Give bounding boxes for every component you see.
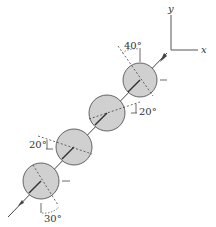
angle-label-bottom: 30°	[44, 213, 62, 224]
sphere-3: 20°	[29, 129, 92, 165]
angle-label-top: 40°	[124, 40, 142, 51]
sphere-2: 20°	[89, 95, 157, 131]
coordinate-axes: y x	[167, 3, 207, 55]
y-axis-label: y	[167, 3, 174, 14]
angle-label-third: 20°	[29, 139, 47, 150]
sphere-1: 40°	[118, 40, 167, 97]
x-axis-label: x	[201, 44, 207, 55]
angle-label-second: 20°	[139, 106, 157, 117]
diagram-canvas: y x 40° 20° 20°	[0, 0, 216, 227]
sphere-4: 30°	[23, 163, 70, 224]
